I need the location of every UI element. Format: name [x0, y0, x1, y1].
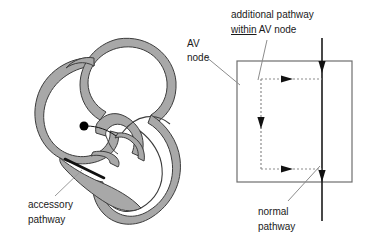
normal-pathway-arrowhead-upper — [318, 61, 325, 73]
normal-pathway-label-line2: pathway — [258, 221, 295, 232]
accessory-pathway-origin-dot — [80, 122, 89, 131]
normal-pathway-arrowhead-lower — [318, 170, 325, 182]
additional-pathway-label-line1: additional pathway — [231, 9, 314, 20]
diagram-canvas: accessory pathway — [0, 0, 366, 242]
heart-cross-section — [35, 38, 181, 224]
additional-pathway-arrowhead-down — [257, 117, 264, 129]
left-atrium-wall — [80, 38, 176, 123]
additional-pathway-label-line2: within AV node — [230, 24, 297, 35]
accessory-pathway-label-line1: accessory — [28, 199, 73, 210]
accessory-pathway-label-line2: pathway — [28, 214, 65, 225]
additional-pathway-label-rest: AV node — [257, 24, 297, 35]
normal-pathway-label-line1: normal — [258, 206, 289, 217]
right-atrium-wall — [35, 58, 119, 164]
additional-pathway-arrowhead-top-right — [281, 76, 293, 83]
figure-root: accessory pathway — [0, 0, 366, 242]
accessory-pathway-leader-line — [55, 170, 82, 196]
additional-pathway-label-underlined-word: within — [230, 24, 257, 35]
additional-pathway-leader-line — [258, 40, 267, 80]
av-node-leader-line — [205, 56, 240, 85]
additional-pathway-arrowhead-bottom-right — [281, 166, 293, 173]
av-node-label-line2: node — [187, 52, 210, 63]
av-node-label-line1: AV — [187, 38, 200, 49]
normal-pathway-leader-line — [288, 166, 320, 201]
av-node-schematic — [205, 38, 352, 221]
